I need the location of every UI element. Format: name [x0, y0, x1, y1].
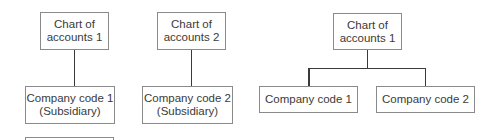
shared-company-code-2-label: Company code 2 — [382, 93, 469, 106]
shared-chart-line1: Chart of — [347, 19, 388, 32]
chart-of-accounts-1-line1: Chart of — [54, 18, 95, 31]
connector-drop-left — [308, 68, 310, 86]
connector-chart1-company1 — [74, 50, 76, 86]
chart-of-accounts-2-line2: accounts 2 — [164, 31, 220, 44]
company-code-2-line1: Company code 2 — [144, 92, 231, 105]
chart-of-accounts-2-line1: Chart of — [171, 18, 212, 31]
chart-of-accounts-1-box: Chart of accounts 1 — [40, 12, 109, 50]
company-code-1-line1: Company code 1 — [27, 92, 114, 105]
company-code-1-subsidiary-box: Company code 1 (Subsidiary) — [25, 86, 115, 124]
connector-horizontal — [308, 68, 426, 70]
company-code-2-line2: (Subsidiary) — [157, 105, 218, 118]
company-code-1-line2: (Subsidiary) — [39, 105, 100, 118]
shared-chart-line2: accounts 1 — [340, 32, 396, 45]
chart-of-accounts-2-box: Chart of accounts 2 — [157, 12, 226, 50]
company-code-2-subsidiary-box: Company code 2 (Subsidiary) — [142, 86, 233, 124]
connector-stem — [367, 50, 369, 68]
shared-company-code-2-box: Company code 2 — [376, 86, 475, 113]
shared-company-code-1-box: Company code 1 — [259, 86, 358, 113]
shared-chart-of-accounts-box: Chart of accounts 1 — [333, 13, 402, 50]
connector-chart2-company2 — [191, 50, 193, 86]
chart-of-accounts-1-line2: accounts 1 — [47, 31, 103, 44]
shared-company-code-1-label: Company code 1 — [265, 93, 352, 106]
partial-box — [25, 137, 114, 140]
connector-drop-right — [425, 68, 427, 86]
